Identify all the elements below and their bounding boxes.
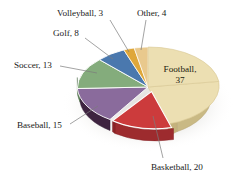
slice-label-other: Other, 4: [137, 8, 166, 19]
leader-line-other: [141, 20, 146, 50]
leader-line-golf: [85, 38, 113, 59]
slice-label-golf: Golf, 8: [53, 28, 79, 39]
leader-line-volleyball: [110, 20, 129, 52]
slice-label-football-value: 37: [152, 75, 208, 86]
slice-label-basketball: Basketball, 20: [151, 162, 203, 173]
pie-chart-graphic: [0, 0, 237, 182]
slice-label-baseball: Baseball, 15: [17, 120, 62, 131]
pie-chart-figure: Volleyball, 3 Other, 4 Golf, 8 Soccer, 1…: [0, 0, 237, 182]
slice-label-volleyball: Volleyball, 3: [57, 8, 103, 19]
slice-label-football-name: Football,: [152, 64, 208, 75]
slice-label-soccer: Soccer, 13: [14, 60, 52, 71]
slice-side-basketball-edge: [113, 121, 116, 134]
slice-label-football: Football, 37: [152, 64, 208, 85]
